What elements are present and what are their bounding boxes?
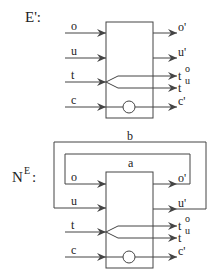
title-n-e-suffix: : <box>32 169 36 185</box>
component-box <box>106 22 153 118</box>
output-label-o-prime: o' <box>178 20 186 34</box>
title-n-e-sup: E <box>24 165 30 176</box>
component-box <box>106 172 153 268</box>
output-sup-o: o <box>185 213 190 224</box>
circle-node <box>123 101 135 113</box>
output-label-t-bottom: t <box>178 231 182 245</box>
circle-node <box>123 251 135 263</box>
diagram-canvas: E': o u t c o' u' t o t u c' N E : <box>0 0 217 279</box>
input-label-o: o <box>71 170 77 184</box>
loop-label-b: b <box>127 129 133 143</box>
input-label-u: u <box>71 44 77 58</box>
diagram-n-e: N E : b a o u t c o' u' t o t u <box>12 129 206 268</box>
title-e-prime: E': <box>25 9 41 25</box>
input-label-u: u <box>71 194 77 208</box>
diagram-e-prime: E': o u t c o' u' t o t u c' <box>25 9 190 118</box>
split-line-top <box>106 226 153 232</box>
input-label-o: o <box>71 19 77 33</box>
input-label-c: c <box>71 93 76 107</box>
output-label-c-prime: c' <box>178 244 186 258</box>
output-label-o-prime: o' <box>178 171 186 185</box>
input-label-c: c <box>71 243 76 257</box>
output-label-u-prime: u' <box>178 196 186 210</box>
split-line-top <box>106 76 153 82</box>
output-sup-u: u <box>185 225 190 236</box>
output-sup-o: o <box>185 63 190 74</box>
output-label-t-bottom: t <box>178 81 182 95</box>
output-label-u-prime: u' <box>178 45 186 59</box>
loop-label-a: a <box>128 156 134 170</box>
input-label-t: t <box>71 68 75 82</box>
input-label-t: t <box>71 218 75 232</box>
output-sup-u: u <box>185 75 190 86</box>
split-line-bottom <box>106 82 153 88</box>
output-label-c-prime: c' <box>178 94 186 108</box>
title-n-e-base: N <box>12 169 23 185</box>
split-line-bottom <box>106 232 153 238</box>
